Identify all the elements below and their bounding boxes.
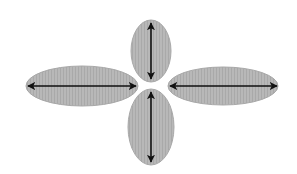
lobes-group: [26, 20, 278, 165]
dipole-lobes-diagram: [0, 0, 297, 174]
right-lobe: [168, 67, 278, 105]
bottom-lobe: [128, 89, 174, 165]
left-lobe: [26, 66, 138, 106]
top-lobe: [131, 20, 171, 82]
